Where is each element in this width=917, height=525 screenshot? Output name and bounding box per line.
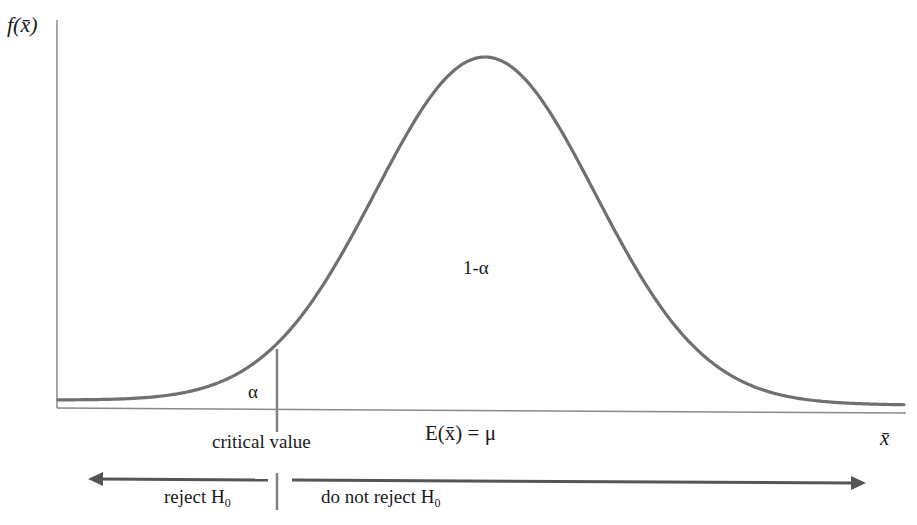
x-axis-label: x̄ bbox=[880, 428, 889, 449]
diagram-canvas bbox=[0, 0, 917, 525]
mean-label: E(x̄) = μ bbox=[425, 423, 496, 444]
reject-subscript: 0 bbox=[225, 496, 231, 510]
tail-area-label: α bbox=[248, 382, 258, 401]
reject-text: reject H bbox=[164, 486, 225, 507]
not-reject-arrow-line bbox=[292, 480, 852, 483]
center-area-label: 1-α bbox=[463, 258, 489, 277]
y-axis-label: f(x̄) bbox=[7, 14, 38, 36]
reject-arrow-head bbox=[88, 472, 103, 486]
reject-arrow-line bbox=[100, 479, 268, 480]
not-reject-arrow-head bbox=[851, 476, 866, 490]
not-reject-text: do not reject H bbox=[321, 486, 434, 507]
x-axis bbox=[57, 408, 906, 413]
not-reject-subscript: 0 bbox=[434, 496, 440, 510]
normal-curve bbox=[58, 57, 904, 405]
critical-value-label: critical value bbox=[212, 432, 311, 451]
not-reject-h0-label: do not reject H0 bbox=[321, 487, 440, 509]
reject-h0-label: reject H0 bbox=[164, 487, 231, 509]
